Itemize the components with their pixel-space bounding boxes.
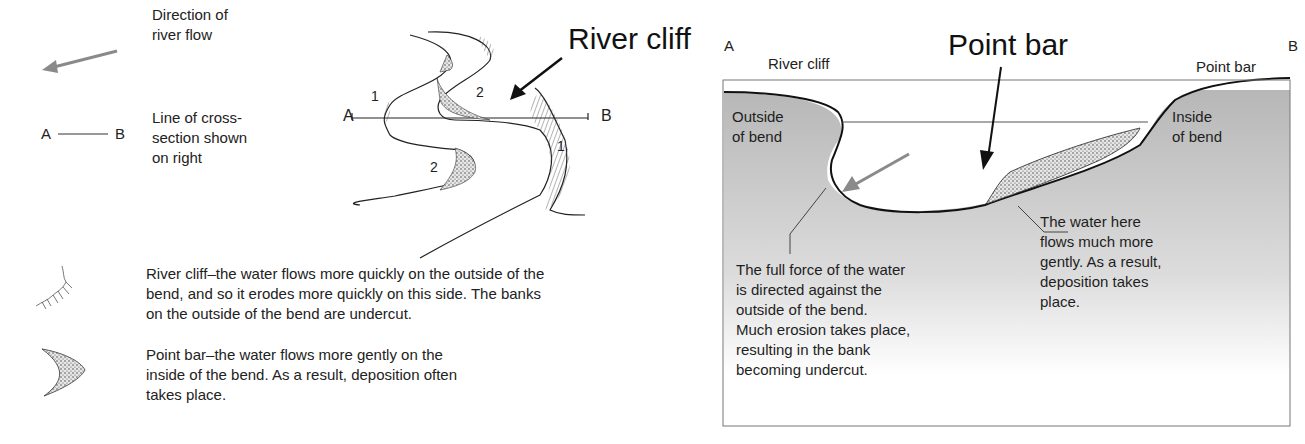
key-point-bar-line2: inside of the bend. As a result, deposit…: [146, 365, 457, 385]
section-point-b: B: [1288, 37, 1298, 54]
legend-flow-text: Direction of river flow: [152, 5, 228, 45]
map-title-river-cliff: River cliff: [568, 22, 691, 56]
river-cliff-map-top: [478, 36, 494, 62]
left-note: The full force of the water is directed …: [736, 260, 910, 380]
point-bar-key-icon: [42, 349, 85, 396]
right-note: The water here flows much more gently. A…: [1040, 212, 1161, 312]
river-cliff-key-icon: [36, 266, 72, 309]
legend-flow-line1: Direction of: [152, 5, 228, 25]
left-note-line: The full force of the water: [736, 260, 910, 280]
right-note-line: The water here: [1040, 212, 1161, 232]
right-note-line: flows much more: [1040, 232, 1161, 252]
left-note-line: is directed against the: [736, 280, 910, 300]
map-point-b: B: [601, 107, 612, 125]
inside-line1: Inside: [1172, 107, 1222, 127]
section-title-point-bar: Point bar: [948, 28, 1068, 62]
section-point-bar-label: Point bar: [1196, 58, 1256, 75]
inside-line2: of bend: [1172, 127, 1222, 147]
legend-flow-line2: river flow: [152, 25, 228, 45]
key-river-cliff-line3: on the outside of the bend are undercut.: [146, 304, 544, 324]
legend-point-a: A: [41, 124, 51, 144]
map-number-1-right: 1: [557, 138, 565, 154]
left-note-line: outside of the bend.: [736, 300, 910, 320]
legend-section-text: Line of cross- section shown on right: [152, 108, 247, 168]
key-point-bar-text: Point bar–the water flows more gently on…: [146, 345, 457, 405]
river-cliff-map-left: [384, 100, 391, 122]
outside-of-bend-label: Outside of bend: [732, 107, 784, 147]
section-river-cliff-label: River cliff: [768, 55, 829, 72]
outside-line1: Outside: [732, 107, 784, 127]
key-river-cliff-text: River cliff–the water flows more quickly…: [146, 264, 544, 324]
key-point-bar-line1: Point bar–the water flows more gently on…: [146, 345, 457, 365]
key-point-bar-line3: takes place.: [146, 385, 457, 405]
right-note-line: place.: [1040, 292, 1161, 312]
left-note-line: Much erosion takes place,: [736, 320, 910, 340]
legend-section-line1: Line of cross-: [152, 108, 247, 128]
river-cliff-pointer-arrow: [518, 58, 562, 92]
map-number-2-bottom: 2: [430, 159, 438, 175]
key-river-cliff-line2: bend, and so it erodes more quickly on t…: [146, 284, 544, 304]
map-number-2-top: 2: [476, 84, 484, 100]
left-note-line: becoming undercut.: [736, 360, 910, 380]
legend-section-line2: section shown: [152, 128, 247, 148]
point-bar-map-bottom: [440, 148, 476, 190]
key-river-cliff-line1: River cliff–the water flows more quickly…: [146, 264, 544, 284]
left-note-line: resulting in the bank: [736, 340, 910, 360]
inside-of-bend-label: Inside of bend: [1172, 107, 1222, 147]
grey-arrow-left-icon: [42, 51, 117, 73]
legend-section-line3: on right: [152, 148, 247, 168]
outside-line2: of bend: [732, 127, 784, 147]
map-number-1-left: 1: [371, 88, 379, 104]
legend-point-b: B: [115, 124, 125, 144]
right-note-line: deposition takes: [1040, 272, 1161, 292]
map-point-a: A: [343, 107, 354, 125]
right-note-line: gently. As a result,: [1040, 252, 1161, 272]
section-point-a: A: [724, 37, 734, 54]
